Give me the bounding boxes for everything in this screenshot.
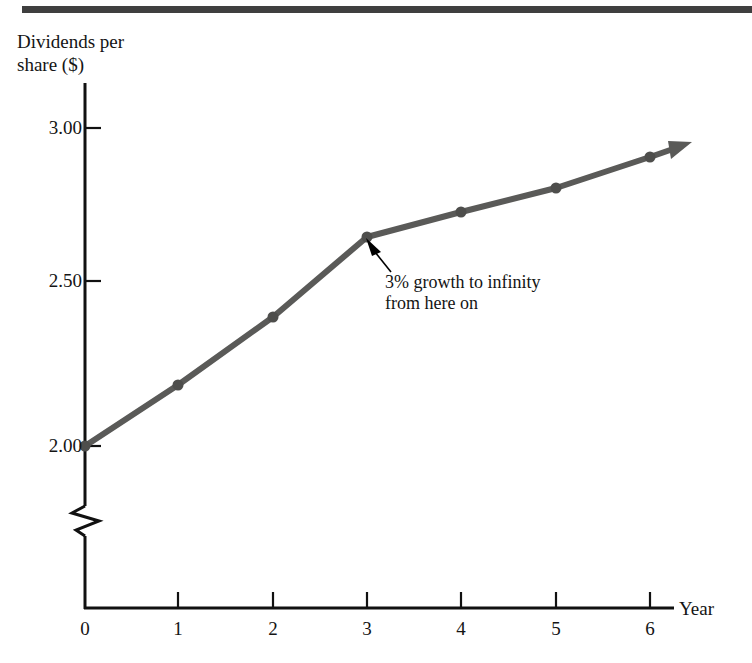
x-tick-label-5: 5: [541, 618, 571, 640]
data-point-marker: [456, 207, 467, 218]
x-tick-label-3: 3: [352, 618, 382, 640]
data-point-marker: [173, 380, 184, 391]
data-point-marker: [645, 152, 656, 163]
x-tick-label-0: 0: [70, 618, 100, 640]
y-tick-label-300: 3.00: [18, 117, 82, 139]
dividend-series-line: [85, 157, 650, 446]
growth-annotation-text: 3% growth to infinity from here on: [385, 272, 541, 314]
y-tick-label-250: 2.50: [18, 270, 82, 292]
y-axis-title: Dividends per share ($): [17, 30, 124, 76]
x-tick-label-2: 2: [258, 618, 288, 640]
annotation-arrowhead-icon: [366, 238, 381, 256]
x-tick-label-4: 4: [446, 618, 476, 640]
data-point-marker: [268, 312, 279, 323]
x-axis-title: Year: [679, 597, 714, 620]
data-point-marker: [551, 183, 562, 194]
x-tick-label-6: 6: [635, 618, 665, 640]
dividends-line-chart: [0, 0, 752, 663]
x-tick-label-1: 1: [163, 618, 193, 640]
series-end-arrowhead-icon: [668, 141, 692, 159]
y-axis-break-zigzag: [72, 506, 99, 536]
y-tick-label-200: 2.00: [18, 435, 82, 457]
